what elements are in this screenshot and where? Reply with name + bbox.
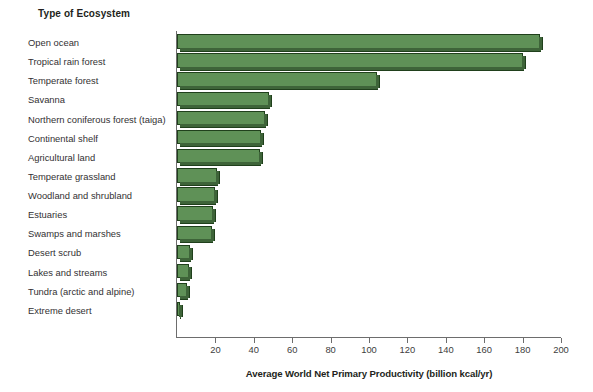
category-label: Agricultural land — [28, 148, 95, 167]
category-label: Tropical rain forest — [28, 52, 105, 71]
bar-side-face — [216, 171, 220, 183]
bar-bottom-face — [180, 124, 266, 128]
plot-area — [177, 33, 561, 320]
bar-bottom-face — [180, 182, 218, 186]
x-axis-tick-label: 40 — [249, 344, 259, 355]
bar-side-face — [179, 305, 183, 317]
column-header-type-of-ecosystem: Type of Ecosystem — [38, 8, 130, 19]
bar — [177, 245, 190, 259]
category-label: Temperate grassland — [28, 167, 116, 186]
category-label: Lakes and streams — [28, 263, 107, 282]
bar — [177, 34, 540, 48]
bar — [177, 168, 217, 182]
category-label: Extreme desert — [28, 301, 92, 320]
category-label: Northern coniferous forest (taiga) — [28, 110, 166, 129]
category-label: Savanna — [28, 90, 65, 109]
x-axis-tick — [369, 338, 370, 343]
bar-bottom-face — [180, 67, 524, 71]
bar — [177, 111, 265, 125]
x-axis-tick — [292, 338, 293, 343]
category-label: Temperate forest — [28, 71, 98, 90]
bar — [177, 206, 213, 220]
bar-side-face — [539, 37, 543, 49]
bar — [177, 92, 269, 106]
x-axis-tick — [446, 338, 447, 343]
x-axis-tick — [407, 338, 408, 343]
x-axis-tick — [331, 338, 332, 343]
category-label-list: Open oceanTropical rain forestTemperate … — [0, 33, 175, 320]
bar-side-face — [260, 133, 264, 145]
x-axis-tick — [215, 338, 216, 343]
bar-side-face — [214, 190, 218, 202]
bar-bottom-face — [180, 220, 214, 224]
x-axis-tick-label: 100 — [361, 344, 377, 355]
bar — [177, 72, 377, 86]
bar — [177, 53, 523, 67]
x-axis-tick-label: 60 — [287, 344, 297, 355]
category-label: Desert scrub — [28, 243, 81, 262]
bar — [177, 283, 187, 297]
y-axis-line — [176, 31, 177, 338]
bar-side-face — [376, 75, 380, 87]
bar-bottom-face — [180, 239, 213, 243]
x-axis-tick — [523, 338, 524, 343]
category-label: Continental shelf — [28, 129, 98, 148]
bar-side-face — [188, 267, 192, 279]
x-axis-tick — [561, 338, 562, 343]
bar-side-face — [212, 209, 216, 221]
x-axis-tick-label: 140 — [438, 344, 454, 355]
bar — [177, 187, 215, 201]
category-label: Tundra (arctic and alpine) — [28, 282, 134, 301]
bar-bottom-face — [180, 48, 541, 52]
bar — [177, 149, 260, 163]
category-label: Estuaries — [28, 205, 67, 224]
bar-bottom-face — [180, 86, 378, 90]
category-label: Open ocean — [28, 33, 79, 52]
x-axis-tick-label: 160 — [476, 344, 492, 355]
x-axis-tick-label: 20 — [210, 344, 220, 355]
category-label: Swamps and marshes — [28, 224, 121, 243]
bar-side-face — [264, 114, 268, 126]
x-axis-tick-label: 80 — [325, 344, 335, 355]
bar — [177, 130, 261, 144]
x-axis-tick — [254, 338, 255, 343]
x-axis-tick-label: 200 — [553, 344, 569, 355]
bar-side-face — [268, 95, 272, 107]
x-axis-tick-label: 180 — [515, 344, 531, 355]
x-axis-title: Average World Net Primary Productivity (… — [177, 368, 561, 379]
x-axis-tick-label: 120 — [400, 344, 416, 355]
bar-bottom-face — [180, 201, 216, 205]
bar-side-face — [259, 152, 263, 164]
bar-side-face — [186, 286, 190, 298]
bar-bottom-face — [180, 105, 270, 109]
bar — [177, 264, 189, 278]
bar-side-face — [522, 56, 526, 68]
bar — [177, 302, 180, 316]
bar-bottom-face — [180, 143, 262, 147]
bar-bottom-face — [180, 162, 261, 166]
chart-figure: Type of Ecosystem Open oceanTropical rai… — [0, 0, 593, 392]
x-axis-tick — [484, 338, 485, 343]
bar — [177, 226, 212, 240]
bar-side-face — [211, 229, 215, 241]
category-label: Woodland and shrubland — [28, 186, 132, 205]
bar-side-face — [189, 248, 193, 260]
